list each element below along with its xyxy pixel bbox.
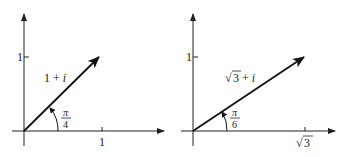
- right-angle-denominator: 6: [232, 119, 237, 130]
- left-vector-label: 1 + i: [44, 71, 66, 85]
- complex-plane-figure: 1 1 1 + i π 4 1 √ 3 √ 3 + i π: [0, 0, 340, 157]
- right-x-tick-label: √ 3: [296, 136, 313, 150]
- right-vector-label: √ 3 + i: [225, 71, 255, 85]
- svg-text:3 + i: 3 + i: [233, 71, 255, 85]
- right-y-tick-label: 1: [186, 50, 192, 64]
- left-angle-numerator: π: [63, 107, 69, 118]
- left-vector-arrow: [24, 57, 99, 131]
- left-diagram: 1 1 1 + i π 4: [12, 14, 164, 149]
- left-y-tick-label: 1: [17, 50, 23, 64]
- left-x-tick-label: 1: [99, 135, 105, 149]
- svg-text:√: √: [296, 136, 303, 150]
- svg-text:3: 3: [304, 136, 310, 150]
- right-diagram: 1 √ 3 √ 3 + i π 6: [181, 14, 335, 150]
- right-vector-arrow: [193, 57, 304, 131]
- left-angle-denominator: 4: [63, 119, 68, 130]
- right-angle-numerator: π: [232, 107, 238, 118]
- left-angle-arc: [50, 108, 58, 131]
- right-angle-arc: [222, 112, 227, 131]
- svg-text:√: √: [225, 71, 232, 85]
